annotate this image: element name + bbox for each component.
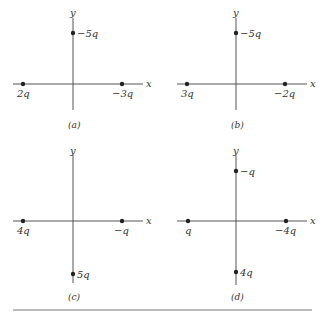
charge-point	[283, 82, 287, 86]
charge-label: −3q	[112, 88, 133, 99]
y-axis-label: y	[69, 145, 76, 156]
charge-label: 4q	[239, 267, 253, 278]
charge-point	[120, 219, 124, 223]
charge-label: 3q	[181, 88, 194, 99]
charge-label: 4q	[16, 225, 30, 236]
charge-label: −5q	[240, 28, 261, 39]
panel-c: x y 4q −q 5q (c)	[13, 145, 152, 302]
panel-d: x y q −4q −q 4q (d)	[177, 145, 316, 302]
charge-point	[71, 272, 75, 276]
panel-caption: (c)	[68, 292, 81, 302]
charge-point	[234, 169, 238, 173]
panel-a: x y 2q −3q −5q (a)	[13, 7, 152, 130]
charge-point	[186, 219, 190, 223]
panel-caption: (b)	[231, 120, 244, 130]
charge-point	[234, 270, 238, 274]
charge-point	[185, 82, 189, 86]
charge-label: −q	[240, 166, 255, 177]
x-axis-label: x	[310, 215, 316, 226]
panel-b: x y 3q −2q −5q (b)	[177, 7, 316, 130]
x-axis-label: x	[146, 215, 152, 226]
charge-label: −2q	[274, 88, 295, 99]
charge-point	[284, 219, 288, 223]
y-axis-label: y	[232, 145, 239, 156]
charge-point	[120, 82, 124, 86]
charge-diagram-figure: x y 2q −3q −5q (a) x y 3q −2q −5q (b) x …	[0, 0, 325, 315]
charge-label: 5q	[77, 269, 90, 280]
x-axis-label: x	[146, 78, 152, 89]
charge-label: −5q	[77, 28, 98, 39]
charge-point	[71, 31, 75, 35]
charge-label: −q	[114, 225, 129, 236]
charge-point	[234, 31, 238, 35]
charge-point	[21, 82, 25, 86]
x-axis-label: x	[310, 78, 316, 89]
y-axis-label: y	[232, 7, 239, 18]
charge-label: −4q	[275, 225, 296, 236]
charge-label: q	[185, 225, 191, 236]
charge-point	[21, 219, 25, 223]
y-axis-label: y	[69, 7, 76, 18]
panel-caption: (a)	[68, 120, 81, 130]
charge-label: 2q	[16, 88, 30, 99]
panel-caption: (d)	[231, 292, 244, 302]
